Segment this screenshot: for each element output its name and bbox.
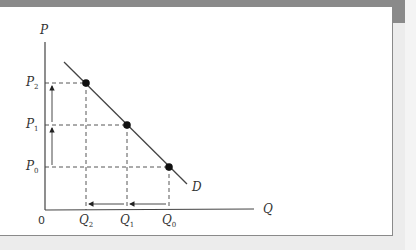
point-q1-p1 [123, 121, 131, 129]
guide-lines [45, 83, 169, 210]
y-axis-label: P [39, 23, 49, 37]
point-q0-p0 [165, 163, 173, 171]
quantity-label-q1: Q1 [120, 213, 134, 229]
demand-label: D [191, 180, 202, 194]
x-axis-label: Q [263, 202, 273, 216]
price-label-p2: P2 [25, 75, 39, 91]
quantity-label-q2: Q2 [79, 213, 93, 229]
price-label-p1: P1 [25, 117, 39, 133]
demand-diagram: P Q 0 D P2 P1 P0 Q2 Q1 Q0 [0, 0, 416, 250]
quantity-label-q0: Q0 [162, 213, 176, 229]
x-axis [45, 209, 254, 210]
point-q2-p2 [82, 79, 90, 87]
price-label-p0: P0 [25, 159, 39, 175]
origin-label: 0 [38, 214, 45, 227]
